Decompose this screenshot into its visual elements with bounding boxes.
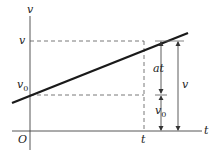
at-label: at <box>153 62 165 75</box>
y-axis-label: v <box>27 3 34 16</box>
v0-annotation: v0 <box>155 104 166 119</box>
v-tick-label: v <box>19 34 26 47</box>
velocity-time-diagram: v t O v v0 t at v0 v <box>0 0 215 155</box>
t-tick-label: t <box>141 133 146 146</box>
origin-label: O <box>18 133 27 146</box>
v0-tick-label: v0 <box>17 78 28 93</box>
v-annotation: v <box>182 78 189 91</box>
x-axis-label: t <box>204 124 209 137</box>
